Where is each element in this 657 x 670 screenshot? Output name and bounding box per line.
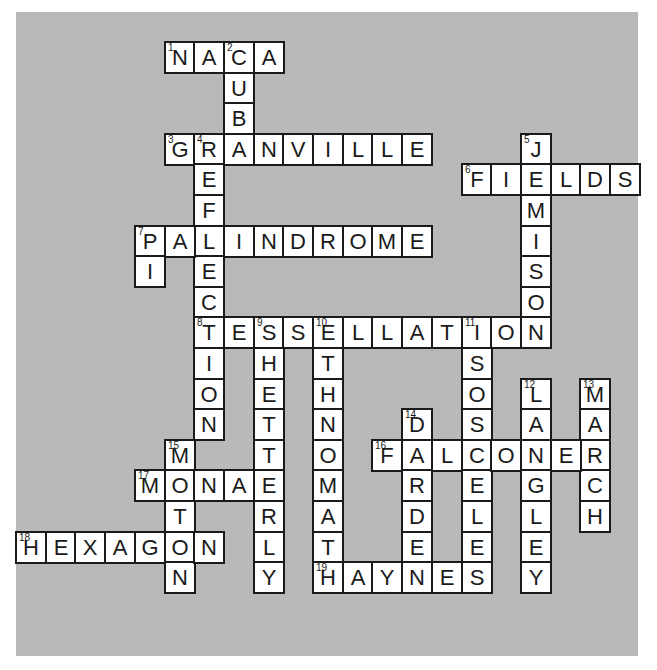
crossword-cell[interactable]: I11 — [461, 316, 493, 349]
crossword-cell[interactable]: U — [223, 72, 255, 105]
crossword-cell[interactable]: T — [312, 347, 344, 380]
crossword-cell[interactable]: Y — [371, 561, 403, 594]
crossword-cell[interactable]: D — [401, 500, 433, 533]
crossword-cell[interactable]: N — [193, 469, 225, 502]
crossword-cell[interactable]: I — [520, 225, 552, 258]
crossword-cell[interactable]: H18 — [15, 531, 47, 564]
crossword-cell[interactable]: E — [401, 225, 433, 258]
crossword-cell[interactable]: G — [134, 531, 166, 564]
crossword-cell[interactable]: O — [520, 286, 552, 319]
crossword-cell[interactable]: Y — [253, 561, 285, 594]
crossword-cell[interactable]: F16 — [371, 439, 403, 472]
crossword-cell[interactable]: L — [193, 225, 225, 258]
crossword-cell[interactable]: E — [550, 439, 582, 472]
crossword-cell[interactable]: T — [164, 500, 196, 533]
crossword-cell[interactable]: N — [193, 408, 225, 441]
crossword-cell[interactable]: S9 — [253, 316, 285, 349]
crossword-cell[interactable]: M15 — [164, 439, 196, 472]
crossword-cell[interactable]: N — [193, 531, 225, 564]
crossword-cell[interactable]: E — [520, 163, 552, 196]
crossword-cell[interactable]: C — [193, 286, 225, 319]
crossword-cell[interactable]: R — [253, 500, 285, 533]
crossword-cell[interactable]: N — [520, 439, 552, 472]
crossword-cell[interactable]: A — [401, 316, 433, 349]
crossword-cell[interactable]: M — [371, 225, 403, 258]
crossword-cell[interactable]: L12 — [520, 378, 552, 411]
crossword-cell[interactable]: T8 — [193, 316, 225, 349]
crossword-cell[interactable]: R — [401, 469, 433, 502]
crossword-cell[interactable]: X — [74, 531, 106, 564]
crossword-cell[interactable]: E — [401, 531, 433, 564]
crossword-cell[interactable]: R — [579, 439, 611, 472]
crossword-cell[interactable]: L — [520, 500, 552, 533]
crossword-cell[interactable]: C — [461, 439, 493, 472]
crossword-cell[interactable]: M13 — [579, 378, 611, 411]
crossword-cell[interactable]: A — [342, 561, 374, 594]
crossword-cell[interactable]: E — [461, 531, 493, 564]
crossword-cell[interactable]: E — [193, 163, 225, 196]
crossword-cell[interactable]: A — [164, 225, 196, 258]
crossword-cell[interactable]: E — [45, 531, 77, 564]
crossword-cell[interactable]: N — [253, 225, 285, 258]
crossword-cell[interactable]: N — [401, 561, 433, 594]
crossword-cell[interactable]: O — [490, 316, 522, 349]
crossword-cell[interactable]: L — [253, 531, 285, 564]
crossword-cell[interactable]: N — [520, 316, 552, 349]
crossword-cell[interactable]: E — [401, 133, 433, 166]
crossword-cell[interactable]: H19 — [312, 561, 344, 594]
crossword-cell[interactable]: E — [223, 316, 255, 349]
crossword-cell[interactable]: P7 — [134, 225, 166, 258]
crossword-cell[interactable]: O — [193, 378, 225, 411]
crossword-cell[interactable]: L — [342, 316, 374, 349]
crossword-cell[interactable]: O — [312, 439, 344, 472]
crossword-cell[interactable]: A — [579, 408, 611, 441]
crossword-cell[interactable]: N — [312, 408, 344, 441]
crossword-cell[interactable]: E — [520, 531, 552, 564]
crossword-cell[interactable]: F — [193, 194, 225, 227]
crossword-cell[interactable]: S — [609, 163, 641, 196]
crossword-cell[interactable]: S — [520, 255, 552, 288]
crossword-cell[interactable]: I — [134, 255, 166, 288]
crossword-cell[interactable]: A — [520, 408, 552, 441]
crossword-cell[interactable]: L — [550, 163, 582, 196]
crossword-cell[interactable]: A — [193, 41, 225, 74]
crossword-cell[interactable]: B — [223, 102, 255, 135]
crossword-cell[interactable]: N1 — [164, 41, 196, 74]
crossword-cell[interactable]: G3 — [164, 133, 196, 166]
crossword-cell[interactable]: N — [164, 561, 196, 594]
crossword-cell[interactable]: C — [579, 469, 611, 502]
crossword-cell[interactable]: E — [253, 469, 285, 502]
crossword-cell[interactable]: I — [312, 133, 344, 166]
crossword-cell[interactable]: I — [223, 225, 255, 258]
crossword-cell[interactable]: Y — [520, 561, 552, 594]
crossword-cell[interactable]: T — [312, 531, 344, 564]
crossword-cell[interactable]: T — [431, 316, 463, 349]
crossword-cell[interactable]: O — [164, 531, 196, 564]
crossword-cell[interactable]: H — [253, 347, 285, 380]
crossword-cell[interactable]: T — [253, 439, 285, 472]
crossword-cell[interactable]: R4 — [193, 133, 225, 166]
crossword-cell[interactable]: D — [579, 163, 611, 196]
crossword-cell[interactable]: M — [520, 194, 552, 227]
crossword-cell[interactable]: A — [223, 133, 255, 166]
crossword-cell[interactable]: C2 — [223, 41, 255, 74]
crossword-cell[interactable]: I — [193, 347, 225, 380]
crossword-cell[interactable]: S — [461, 408, 493, 441]
crossword-cell[interactable]: S — [282, 316, 314, 349]
crossword-cell[interactable]: O — [164, 469, 196, 502]
crossword-cell[interactable]: J5 — [520, 133, 552, 166]
crossword-cell[interactable]: E — [253, 378, 285, 411]
crossword-cell[interactable]: O — [342, 225, 374, 258]
crossword-cell[interactable]: M17 — [134, 469, 166, 502]
crossword-cell[interactable]: E — [461, 469, 493, 502]
crossword-cell[interactable]: A — [104, 531, 136, 564]
crossword-cell[interactable]: N — [253, 133, 285, 166]
crossword-cell[interactable]: O — [490, 439, 522, 472]
crossword-cell[interactable]: S — [461, 347, 493, 380]
crossword-cell[interactable]: S — [461, 561, 493, 594]
crossword-cell[interactable]: O — [461, 378, 493, 411]
crossword-cell[interactable]: F6 — [461, 163, 493, 196]
crossword-cell[interactable]: A — [253, 41, 285, 74]
crossword-cell[interactable]: A — [401, 439, 433, 472]
crossword-cell[interactable]: D14 — [401, 408, 433, 441]
